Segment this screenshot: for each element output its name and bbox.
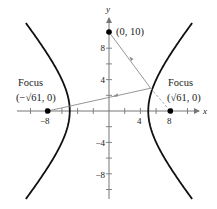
right-focus-title: Focus [168,77,193,88]
y-axis-label: y [105,4,110,14]
x-tick-label-4: 4 [137,116,142,126]
x-axis-label: x [202,106,207,116]
y-tick-label-8: 8 [101,43,106,53]
reflected-ray [48,88,151,111]
right-focus-label: (√61, 0) [167,92,201,104]
incident-ray [109,32,151,88]
x-tick-label-8: 8 [167,116,172,126]
top-point-dot [106,29,112,35]
top-point-label: (0, 10) [116,26,144,38]
y-tick-label-neg4: −4 [95,138,105,148]
right-focus-dot [168,108,174,114]
left-focus-title: Focus [18,77,43,88]
hyperbola-figure: x y −8 4 8 8 4 −4 −8 (0, 10) Focus (−√61… [0,0,217,209]
x-tick-label-neg8: −8 [40,116,50,126]
left-focus-dot [45,108,51,114]
left-focus-label: (−√61, 0) [16,92,56,104]
y-tick-label-4: 4 [101,75,106,85]
reflected-ray-arrow-icon [113,93,118,97]
y-tick-label-neg8: −8 [95,170,105,180]
